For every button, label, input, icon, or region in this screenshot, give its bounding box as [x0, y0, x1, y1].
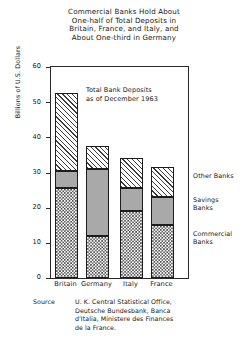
legend-label-savings-banks-line-1: Savings: [193, 196, 219, 204]
bar-segment-italy-savings-banks[interactable]: [120, 188, 143, 211]
chart-annotation-line-2: as of December 1963: [86, 95, 158, 104]
bar-segment-france-other-banks[interactable]: [151, 167, 174, 197]
bar-segment-france-commercial-banks[interactable]: [151, 225, 174, 278]
bar-segment-britain-other-banks[interactable]: [55, 93, 78, 170]
legend-label-commercial-banks-line-1: Commercial: [193, 230, 232, 238]
legend-item-other-banks: Other Banks: [193, 172, 234, 180]
bar-segment-germany-other-banks[interactable]: [86, 146, 109, 169]
legend-label-other-banks: Other Banks: [193, 172, 234, 180]
source-text: U. K. Central Statistical Office, Deutsc…: [75, 298, 235, 333]
chart-annotation-line-1: Total Bank Deposits: [86, 86, 158, 95]
bar-germany[interactable]: [86, 146, 109, 278]
legend-item-savings-banks: Savings Banks: [193, 196, 219, 213]
y-axis-tick: 0: [0, 278, 50, 279]
legend-item-commercial-banks: Commercial Banks: [193, 230, 232, 247]
y-axis-title: Billions of U.S. Dollars: [14, 22, 22, 142]
chart-title-line-4: About One-third in Germany: [0, 34, 248, 43]
bar-france[interactable]: [151, 167, 174, 278]
bar-segment-germany-commercial-banks[interactable]: [86, 236, 109, 278]
x-axis-label-france: France: [141, 280, 182, 288]
bar-segment-britain-savings-banks[interactable]: [55, 171, 78, 189]
y-axis-tick: 10: [0, 243, 50, 244]
bar-segment-france-savings-banks[interactable]: [151, 197, 174, 225]
y-axis-tick: 40: [0, 137, 50, 138]
y-axis-tick-label: 50: [32, 98, 41, 106]
source-text-line-3: d'Italia, Ministere des Finances: [75, 315, 235, 324]
source-text-line-4: de la France.: [75, 324, 235, 333]
y-axis-tick: 50: [0, 102, 50, 103]
source-label: Source: [33, 298, 55, 307]
chart-page: Commercial Banks Hold About One-half of …: [0, 0, 248, 344]
legend-label-commercial-banks-line-2: Banks: [193, 238, 232, 246]
bar-segment-germany-savings-banks[interactable]: [86, 169, 109, 236]
legend-label-savings-banks-line-2: Banks: [193, 204, 219, 212]
source-text-line-1: U. K. Central Statistical Office,: [75, 298, 235, 307]
y-axis-tick: 30: [0, 173, 50, 174]
bar-segment-italy-other-banks[interactable]: [120, 158, 143, 188]
chart-annotation: Total Bank Deposits as of December 1963: [86, 86, 158, 104]
y-axis-tick-label: 40: [32, 133, 41, 141]
y-axis-tick-label: 20: [32, 203, 41, 211]
bar-italy[interactable]: [120, 158, 143, 278]
bar-segment-italy-commercial-banks[interactable]: [120, 211, 143, 278]
source-text-line-2: Deutsche Bundesbank, Banca: [75, 307, 235, 316]
y-axis-tick-label: 30: [32, 168, 41, 176]
chart-title: Commercial Banks Hold About One-half of …: [0, 8, 248, 42]
y-axis-tick-label: 0: [37, 273, 41, 281]
y-axis-tick-label: 10: [32, 238, 41, 246]
bar-segment-britain-commercial-banks[interactable]: [55, 188, 78, 278]
y-axis-tick-label: 60: [32, 62, 41, 70]
bar-britain[interactable]: [55, 93, 78, 278]
x-axis-labels: BritainGermanyItalyFrance: [50, 280, 189, 292]
y-axis-tick: 20: [0, 208, 50, 209]
y-axis-tick: 60: [0, 67, 50, 68]
